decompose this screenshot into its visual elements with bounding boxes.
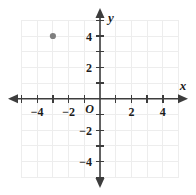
x-tick-label-neg4: −4 [31, 105, 44, 119]
x-tick-label-pos4: 4 [160, 105, 166, 119]
coordinate-plane: −4 −2 2 4 4 2 −2 −4 O x y [0, 0, 196, 195]
x-axis-tick-labels: −4 −2 2 4 [31, 105, 166, 119]
x-axis-arrow-right [178, 94, 188, 103]
plotted-points [50, 33, 56, 39]
y-axis-arrow-up [96, 8, 105, 18]
data-point-a[interactable] [50, 33, 56, 39]
y-tick-label-neg4: −4 [79, 155, 92, 169]
x-tick-label-neg2: −2 [62, 105, 75, 119]
y-axis-arrow-down [96, 178, 105, 188]
y-tick-label-pos2: 2 [86, 61, 92, 75]
origin-label: O [85, 102, 94, 116]
y-tick-label-pos4: 4 [86, 30, 92, 44]
x-axis [8, 94, 188, 103]
x-axis-arrow-left [8, 94, 18, 103]
x-axis-label: x [179, 78, 187, 93]
y-axis-label: y [106, 10, 114, 25]
y-tick-label-neg2: −2 [79, 124, 92, 138]
x-tick-label-pos2: 2 [128, 105, 134, 119]
